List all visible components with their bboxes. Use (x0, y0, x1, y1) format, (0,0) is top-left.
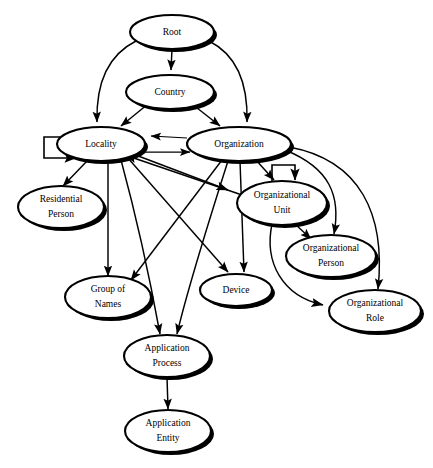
node-layer: Root Country Locality Organization (18, 15, 424, 455)
node-organizational-unit[interactable]: Organizational Unit (237, 181, 330, 228)
diagram-canvas: Root Country Locality Organization (0, 0, 433, 468)
node-residential-person[interactable]: Residential Person (18, 186, 107, 231)
node-organizational-role-label-line1: Organizational (347, 298, 404, 308)
node-organizational-unit-label-line1: Organizational (254, 190, 311, 200)
node-locality-label: Locality (85, 139, 117, 149)
node-organizational-role-label-line2: Role (366, 313, 384, 323)
edge-root-organization (209, 41, 247, 122)
edge-root-country (171, 49, 172, 70)
node-group-of-names-label-line1: Group of (91, 284, 126, 294)
node-organizational-unit-label-line2: Unit (274, 205, 291, 215)
directory-schema-diagram: Root Country Locality Organization (0, 0, 433, 468)
node-country-label: Country (154, 87, 185, 97)
node-organization[interactable]: Organization (187, 127, 294, 164)
edge-application-process-application-entity (167, 377, 168, 409)
node-root-label: Root (163, 27, 182, 37)
edge-root-locality (97, 41, 136, 122)
node-organization-label: Organization (214, 139, 264, 149)
node-application-process-label-line2: Process (152, 358, 181, 368)
node-organizational-person-label-line2: Person (318, 258, 344, 268)
node-group-of-names[interactable]: Group of Names (65, 276, 154, 321)
node-organizational-person-label-line1: Organizational (303, 243, 360, 253)
edge-organization-locality (151, 136, 187, 138)
node-application-entity-label-line1: Application (146, 418, 191, 428)
node-device[interactable]: Device (200, 274, 275, 309)
node-residential-person-label-line2: Person (48, 209, 74, 219)
node-device-label: Device (223, 285, 250, 295)
edge-organization-device (240, 161, 244, 272)
node-group-of-names-label-line2: Names (95, 299, 122, 309)
node-application-entity[interactable]: Application Entity (125, 410, 214, 455)
edge-locality-residential-person (63, 160, 88, 186)
edge-locality-device (127, 157, 228, 272)
node-residential-person-label-line1: Residential (40, 194, 83, 204)
node-application-process[interactable]: Application Process (124, 335, 213, 380)
node-application-entity-label-line2: Entity (156, 433, 179, 443)
node-root[interactable]: Root (130, 15, 217, 52)
node-application-process-label-line1: Application (145, 343, 190, 353)
node-organizational-person[interactable]: Organizational Person (286, 235, 379, 280)
node-organizational-role[interactable]: Organizational Role (329, 290, 424, 335)
node-country[interactable]: Country (126, 75, 217, 112)
edge-organizational-unit-self-loop (272, 165, 295, 182)
